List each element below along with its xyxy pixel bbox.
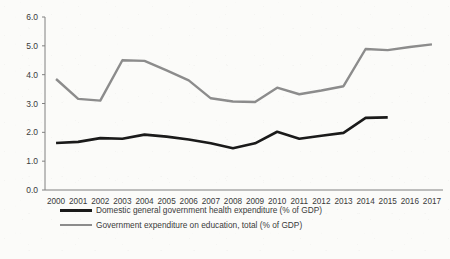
legend-label-health: Domestic general government health expen… — [96, 205, 322, 215]
y-tick-label: 0.0 — [26, 185, 38, 195]
series-line-health — [56, 117, 388, 148]
y-tick-label: 2.0 — [26, 127, 38, 137]
legend-label-education: Government expenditure on education, tot… — [96, 220, 302, 230]
y-tick-label: 4.0 — [26, 70, 38, 80]
legend-item-health: Domestic general government health expen… — [60, 205, 390, 215]
y-tick-label: 3.0 — [26, 99, 38, 109]
y-tick-label: 1.0 — [26, 156, 38, 166]
legend-item-education: Government expenditure on education, tot… — [60, 220, 390, 230]
chart-legend: Domestic general government health expen… — [0, 205, 450, 230]
y-tick-label: 5.0 — [26, 41, 38, 51]
series-line-education — [56, 44, 432, 102]
line-chart: 0.01.02.03.04.05.06.02000200120022003200… — [0, 0, 450, 259]
legend-swatch-education — [60, 224, 92, 227]
legend-swatch-health — [60, 209, 92, 212]
y-tick-label: 6.0 — [26, 12, 38, 22]
